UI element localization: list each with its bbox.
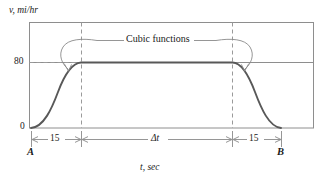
- endpoint-label-b: B: [277, 147, 284, 158]
- x-axis-label: t, sec: [140, 163, 160, 173]
- y-axis-label: v, mi/hr: [9, 6, 38, 16]
- dimension-label-left: 15: [50, 134, 60, 144]
- endpoint-label-a: A: [27, 147, 34, 158]
- cubic-functions-annotation: Cubic functions: [126, 34, 190, 44]
- dimension-label-right: 15: [249, 134, 259, 144]
- leader-loop-left: [61, 39, 97, 71]
- velocity-curve: [31, 62, 281, 128]
- y-tick-label-0: 0: [20, 122, 25, 132]
- leader-loop-right: [216, 39, 252, 71]
- dimension-label-middle: Δt: [151, 134, 159, 144]
- velocity-time-figure: v, mi/hr 80 0 Cubic functions 15 Δt 15 A…: [0, 0, 331, 179]
- y-tick-label-80: 80: [14, 57, 24, 67]
